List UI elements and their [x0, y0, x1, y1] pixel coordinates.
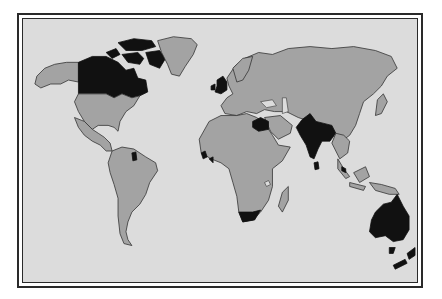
map-frame-inner: World map highlighting British Commonwea…	[22, 18, 418, 283]
world-map	[23, 19, 417, 282]
region-tasmania	[389, 248, 395, 254]
region-southeast-asia	[332, 133, 350, 178]
region-greenland	[158, 37, 198, 76]
region-south-africa	[239, 210, 261, 222]
region-united-kingdom	[211, 76, 227, 94]
region-new-zealand	[393, 248, 415, 270]
region-south-america	[108, 147, 157, 246]
region-guyana	[132, 152, 137, 161]
region-indonesia	[350, 167, 399, 195]
region-australia	[369, 194, 409, 241]
region-alaska	[35, 62, 79, 88]
region-madagascar	[278, 186, 288, 212]
map-frame-outer: World map highlighting British Commonwea…	[17, 13, 423, 288]
region-sri-lanka	[314, 162, 319, 170]
region-japan	[375, 94, 387, 116]
